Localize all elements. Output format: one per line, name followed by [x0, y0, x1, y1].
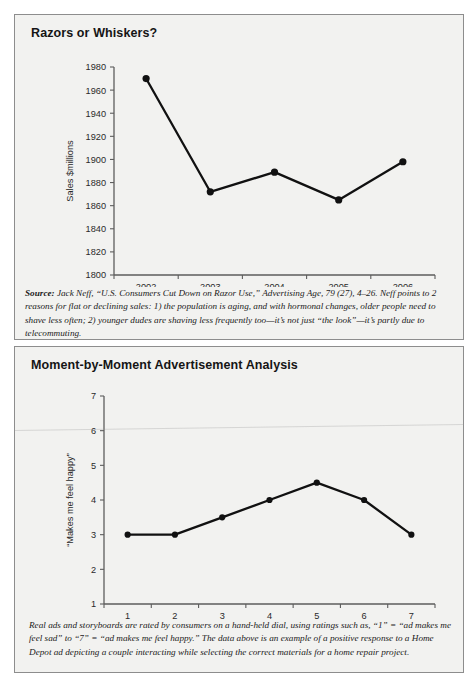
x-axis-tick-label: 5 [314, 611, 319, 619]
y-axis-tick-label: 1800 [86, 270, 106, 280]
x-axis-tick-label: 2 [172, 611, 177, 619]
exhibit-razors-or-whiskers: Razors or Whiskers? 18001820184018601880… [14, 14, 464, 340]
line-chart-sales: 1800182018401860188019001920194019601980… [15, 41, 465, 287]
data-point-marker [172, 532, 178, 538]
y-axis-tick-label: 2 [91, 565, 96, 575]
data-point-marker [125, 532, 131, 538]
source-label: Source: [25, 288, 55, 298]
chart-moment-by-moment: 12345671234567“Makes me feel happy” [15, 373, 465, 619]
y-axis-tick-label: 5 [91, 461, 96, 471]
note-text: Real ads and storyboards are rated by co… [29, 620, 451, 657]
y-axis-tick-label: 1940 [86, 109, 106, 119]
x-axis-tick-label: 1 [125, 611, 130, 619]
y-axis-tick-label: 1 [91, 599, 96, 609]
y-axis-tick-label: 1820 [86, 247, 106, 257]
y-axis-tick-label: 4 [91, 495, 96, 505]
source-caption-top: Source: Jack Neff, “U.S. Consumers Cut D… [25, 287, 455, 341]
data-point-marker [207, 188, 214, 195]
data-point-marker [266, 497, 272, 503]
line-chart-feel-happy: 12345671234567“Makes me feel happy” [15, 373, 465, 619]
exhibit-title-bottom: Moment-by-Moment Advertisement Analysis [31, 358, 298, 372]
x-axis-tick-label: 6 [362, 611, 367, 619]
data-point-marker [143, 75, 150, 82]
y-axis-tick-label: 1900 [86, 155, 106, 165]
data-series-line [146, 79, 403, 200]
x-axis-tick-label: 3 [220, 611, 225, 619]
y-axis-title: Sales $millions [65, 140, 75, 202]
y-axis-tick-label: 6 [91, 426, 96, 436]
y-axis-tick-label: 1880 [86, 178, 106, 188]
data-point-marker [335, 196, 342, 203]
y-axis-tick-label: 1860 [86, 201, 106, 211]
x-axis-tick-label: 4 [267, 611, 272, 619]
data-point-marker [408, 532, 414, 538]
exhibit-title-top: Razors or Whiskers? [31, 26, 157, 40]
y-axis-tick-label: 1920 [86, 132, 106, 142]
source-text: Jack Neff, “U.S. Consumers Cut Down on R… [25, 288, 436, 338]
y-axis-tick-label: 1960 [86, 86, 106, 96]
data-point-marker [399, 158, 406, 165]
exhibit-moment-by-moment: Moment-by-Moment Advertisement Analysis … [14, 346, 464, 673]
chart-razors-or-whiskers: 1800182018401860188019001920194019601980… [15, 41, 465, 287]
data-point-marker [361, 497, 367, 503]
page-canvas: Razors or Whiskers? 18001820184018601880… [0, 0, 476, 685]
x-axis-tick-label: 7 [409, 611, 414, 619]
data-point-marker [314, 480, 320, 486]
y-axis-tick-label: 1840 [86, 224, 106, 234]
data-series-line [128, 483, 412, 535]
note-caption-bottom: Real ads and storyboards are rated by co… [29, 619, 453, 659]
y-axis-title: “Makes me feel happy” [65, 453, 75, 546]
y-axis-tick-label: 3 [91, 530, 96, 540]
data-point-marker [219, 514, 225, 520]
data-point-marker [271, 169, 278, 176]
y-axis-tick-label: 7 [91, 391, 96, 401]
y-axis-tick-label: 1980 [86, 62, 106, 72]
